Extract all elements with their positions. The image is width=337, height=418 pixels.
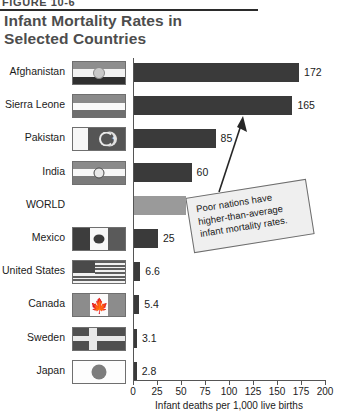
x-axis-tick	[277, 380, 278, 385]
x-axis-tick	[205, 380, 206, 385]
bar	[134, 63, 299, 82]
flag-india-icon	[72, 161, 126, 185]
x-axis-tick	[325, 380, 326, 385]
x-axis-tick	[301, 380, 302, 385]
flag-united-states-icon	[72, 260, 126, 284]
x-axis-tick-label: 175	[293, 386, 310, 397]
bar-value-label: 3.1	[142, 332, 157, 344]
flag-japan-icon	[72, 360, 126, 384]
bar	[134, 262, 140, 281]
bar-value-label: 25	[163, 232, 175, 244]
country-label: Canada	[28, 297, 65, 309]
chart-row: United States6.6	[0, 259, 337, 285]
bar-value-label: 60	[197, 166, 209, 178]
x-axis-tick-label: 75	[199, 386, 210, 397]
x-axis-tick	[181, 380, 182, 385]
country-label: Pakistan	[25, 131, 65, 143]
figure-root: FIGURE 10-6 Infant Mortality Rates in Se…	[0, 0, 337, 418]
bar-value-label: 5.4	[144, 298, 159, 310]
x-axis-tick-label: 200	[317, 386, 334, 397]
country-label: Afghanistan	[10, 65, 65, 77]
flag-sierra-leone-icon	[72, 94, 126, 118]
bar	[134, 295, 139, 314]
country-label: India	[42, 165, 65, 177]
x-axis-tick	[229, 380, 230, 385]
bar-chart: Afghanistan172Sierra Leone165Pakistan✦85…	[0, 0, 337, 418]
flag-sweden-icon	[72, 327, 126, 351]
country-label: Sierra Leone	[5, 98, 65, 110]
flag-mexico-icon	[72, 227, 126, 251]
country-label: Sweden	[27, 331, 65, 343]
bar	[134, 129, 216, 148]
bar-value-label: 6.6	[145, 265, 160, 277]
x-axis-tick-label: 125	[245, 386, 262, 397]
bar-value-label: 2.8	[142, 365, 157, 377]
chart-row: Pakistan✦85	[0, 126, 337, 152]
x-axis-tick	[133, 380, 134, 385]
x-axis-tick	[157, 380, 158, 385]
country-label: WORLD	[26, 198, 65, 210]
x-axis-tick-label: 150	[269, 386, 286, 397]
bar	[134, 96, 292, 115]
country-label: Japan	[36, 364, 65, 376]
country-label: Mexico	[32, 231, 65, 243]
bar	[134, 196, 186, 215]
bar-value-label: 172	[304, 66, 322, 78]
bar	[134, 329, 137, 348]
x-axis-tick-label: 0	[130, 386, 136, 397]
chart-row: Sierra Leone165	[0, 93, 337, 119]
chart-row: Canada🍁5.4	[0, 292, 337, 318]
x-axis-tick	[253, 380, 254, 385]
bar	[134, 362, 137, 381]
x-axis-tick-label: 100	[221, 386, 238, 397]
flag-afghanistan-icon	[72, 61, 126, 85]
bar	[134, 229, 158, 248]
bar-value-label: 85	[221, 132, 233, 144]
flag-pakistan-icon: ✦	[72, 127, 126, 151]
chart-row: Sweden3.1	[0, 326, 337, 352]
x-axis-tick-label: 50	[175, 386, 186, 397]
chart-row: Afghanistan172	[0, 60, 337, 86]
x-axis-tick-label: 25	[151, 386, 162, 397]
bar-value-label: 165	[297, 99, 315, 111]
bar	[134, 163, 192, 182]
country-label: United States	[2, 264, 65, 276]
y-axis-line	[133, 58, 134, 380]
x-axis-label: Infant deaths per 1,000 live births	[133, 400, 325, 411]
flag-canada-icon: 🍁	[72, 293, 126, 317]
